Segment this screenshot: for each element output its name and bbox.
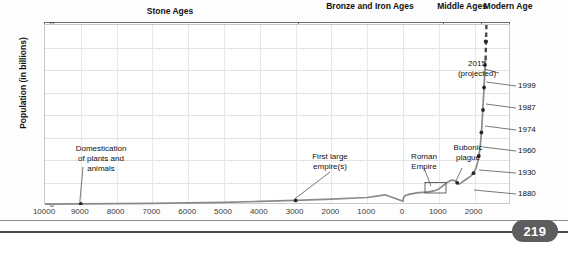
x-tick-10000bce: 10000 <box>33 207 55 216</box>
annotation-bubonic-plague: Bubonic plague <box>454 143 483 163</box>
y-axis-title: Population (in billions) <box>18 8 28 158</box>
x-tick-2000ce: 2000 <box>465 207 483 216</box>
x-tick-4000bce: 4000 <box>250 207 268 216</box>
x-tick-6000bce: 6000 <box>178 207 196 216</box>
x-tick-9000bce: 9000 <box>71 207 89 216</box>
annotation-domestication: Domestication of plants and animals <box>76 144 127 174</box>
x-tick-3000bce: 3000 <box>286 207 304 216</box>
gridline-x-5000 <box>224 25 225 203</box>
x-tick-8000bce: 8000 <box>107 207 125 216</box>
x-tick-5000bce: 5000 <box>214 207 232 216</box>
plot-area <box>44 24 510 204</box>
x-tick-7000bce: 7000 <box>142 207 160 216</box>
datapoint-label-1880: 1880 <box>518 189 536 199</box>
datapoint-label-2015: 2015 (projected) <box>458 59 496 79</box>
gridline-x-6000 <box>188 25 189 203</box>
gridline-x-1000b <box>367 25 368 203</box>
datapoint-label-1999: 1999 <box>518 81 536 91</box>
gridline-x-7000 <box>152 25 153 203</box>
datapoint-label-1930: 1930 <box>518 168 536 178</box>
datapoint-label-1960: 1960 <box>518 146 536 156</box>
datapoint-label-1974: 1974 <box>518 125 536 135</box>
page-footer: 219 <box>0 220 568 259</box>
gridline-x-4000 <box>260 25 261 203</box>
x-tick-year-0: 0 <box>400 207 404 216</box>
datapoint-label-1987: 1987 <box>518 103 536 113</box>
x-tick-1000bce: 1000 <box>357 207 375 216</box>
gridline-x-8000 <box>117 25 118 203</box>
era-label-modern-age: Modern Age <box>484 1 533 11</box>
page-number-badge: 219 <box>512 220 558 242</box>
gridline-x-1000c <box>439 25 440 203</box>
x-tick-2000bce: 2000 <box>321 207 339 216</box>
era-label-bronze-iron-ages: Bronze and Iron Ages <box>326 1 414 11</box>
population-history-chart: Stone Ages Bronze and Iron Ages Middle A… <box>0 0 568 259</box>
annotation-first-empires: First large empire(s) <box>312 152 348 172</box>
footer-rule <box>0 231 568 233</box>
gridline-x-2000b <box>331 25 332 203</box>
annotation-roman-empire: Roman Empire <box>411 152 437 172</box>
era-label-middle-ages: Middle Ages <box>437 1 487 11</box>
era-label-stone-ages: Stone Ages <box>147 6 193 16</box>
gridline-x-2000c <box>475 25 476 203</box>
gridline-x-3000 <box>296 25 297 203</box>
x-tick-1000ce: 1000 <box>429 207 447 216</box>
gridline-x-9000 <box>81 25 82 203</box>
gridline-x-0 <box>403 25 404 203</box>
